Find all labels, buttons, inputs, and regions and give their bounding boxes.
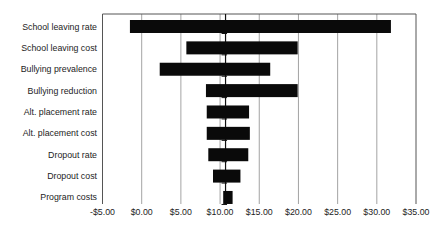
bar	[207, 127, 250, 140]
bar	[206, 84, 298, 97]
bar	[213, 170, 240, 183]
category-label: Dropout cost	[47, 171, 97, 181]
category-label: School leaving rate	[22, 22, 97, 32]
bar	[207, 105, 249, 118]
bar	[130, 20, 391, 33]
x-tick-label: -$5.00	[90, 207, 115, 217]
category-label: Bullying prevalence	[21, 64, 97, 74]
bar	[160, 63, 271, 76]
tornado-chart-figure: School leaving rateSchool leaving costBu…	[0, 0, 444, 235]
category-label: Bullying reduction	[28, 86, 98, 96]
x-tick-label: $30.00	[363, 207, 390, 217]
x-tick-label: $10.00	[207, 207, 234, 217]
bar	[208, 148, 248, 161]
category-label: Alt. placement cost	[23, 128, 98, 138]
bar	[186, 41, 297, 54]
category-label: Dropout rate	[48, 150, 97, 160]
x-tick-label: $5.00	[170, 207, 192, 217]
x-tick-label: $25.00	[324, 207, 351, 217]
category-label: Alt. placement rate	[24, 107, 97, 117]
bar	[223, 191, 232, 204]
x-tick-label: $15.00	[246, 207, 273, 217]
category-label: Program costs	[40, 192, 97, 202]
category-label: School leaving cost	[21, 43, 97, 53]
x-tick-label: $20.00	[285, 207, 312, 217]
plot-area: School leaving rateSchool leaving costBu…	[0, 0, 444, 235]
x-tick-label: $0.00	[131, 207, 153, 217]
x-tick-label: $35.00	[403, 207, 430, 217]
